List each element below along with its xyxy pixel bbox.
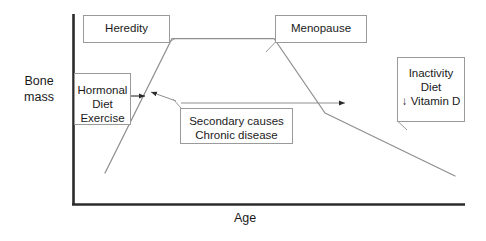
hormonal-box-label: HormonalDietExercise: [74, 83, 131, 125]
hormonal-box-line2: Diet: [92, 98, 112, 110]
bone-mass-age-diagram: Bonemass Age Heredity Menopause Hormonal…: [0, 0, 486, 241]
y-axis-title: Bonemass: [8, 73, 70, 105]
x-axis-title: Age: [200, 212, 290, 226]
y-axis-title-line2: mass: [24, 90, 54, 104]
heredity-box-label: Heredity: [83, 22, 170, 36]
inactivity-line1: Inactivity: [409, 67, 454, 79]
inactivity-line2: Diet: [421, 81, 441, 93]
y-axis-title-line1: Bone: [24, 74, 53, 88]
hormonal-box-line3: Exercise: [80, 112, 124, 124]
secondary-causes-line2: Chronic disease: [195, 129, 277, 141]
inactivity-line3-vitamin-d: ↓ Vitamin D: [402, 95, 461, 107]
menopause-box-label: Menopause: [275, 22, 367, 36]
secondary-causes-box-label: Secondary causesChronic disease: [180, 114, 293, 142]
secondary-causes-line1: Secondary causes: [189, 115, 284, 127]
inactivity-connector: [398, 121, 408, 130]
menopause-connector: [266, 42, 276, 52]
hormonal-box-line1: Hormonal: [78, 84, 128, 96]
growth-limb-pointer: [151, 92, 176, 101]
inactivity-box-label: InactivityDiet↓ Vitamin D: [397, 66, 465, 108]
